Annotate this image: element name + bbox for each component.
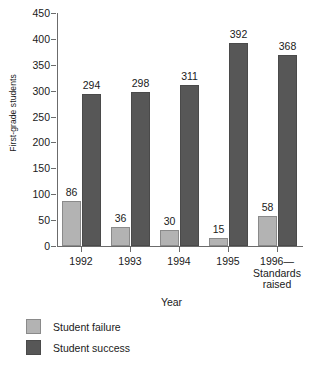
x-tick-mark	[81, 246, 82, 252]
x-axis-line	[57, 246, 303, 247]
legend-item[interactable]: Student failure	[26, 316, 130, 337]
bar-value-label: 368	[268, 41, 308, 52]
legend-item[interactable]: Student success	[26, 337, 130, 358]
x-axis-title-text: Year	[161, 296, 182, 308]
y-tick-mark	[51, 246, 56, 247]
bar-success	[229, 43, 248, 246]
y-tick-label: 50	[16, 215, 50, 226]
bar-value-label: 311	[170, 71, 210, 82]
y-tick-mark	[51, 168, 56, 169]
bar-success	[82, 94, 101, 246]
y-tick-mark	[51, 117, 56, 118]
y-tick-mark	[51, 65, 56, 66]
bar-failure	[160, 230, 179, 246]
bar-value-label: 392	[219, 29, 259, 40]
y-tick-mark	[51, 13, 56, 14]
legend-label: Student success	[53, 342, 130, 354]
bar-value-label: 298	[121, 78, 161, 89]
x-axis-title: Year	[0, 296, 313, 308]
y-tick-label: 250	[16, 111, 50, 122]
y-tick-mark	[51, 220, 56, 221]
legend-swatch-success	[26, 340, 41, 355]
bar-failure	[111, 227, 130, 246]
x-tick-mark	[277, 246, 278, 252]
x-tick-mark	[228, 246, 229, 252]
x-tick-mark	[179, 246, 180, 252]
bar-failure	[62, 201, 81, 246]
bar-success	[278, 55, 297, 246]
y-tick-label: 0	[16, 241, 50, 252]
bar-success	[131, 92, 150, 246]
plot-area: 8629436298303111539258368	[58, 13, 303, 246]
x-category-label: 1996—Standardsraised	[240, 256, 313, 291]
y-tick-label: 350	[16, 60, 50, 71]
y-tick-label: 400	[16, 34, 50, 45]
y-tick-label: 300	[16, 85, 50, 96]
legend-swatch-failure	[26, 319, 41, 334]
bar-chart: First-grade students 0501001502002503003…	[0, 0, 313, 374]
bar-failure	[258, 216, 277, 246]
bar-success	[180, 85, 199, 246]
y-tick-label: 450	[16, 8, 50, 19]
y-tick-mark	[51, 39, 56, 40]
y-tick-label: 150	[16, 163, 50, 174]
chart-legend: Student failureStudent success	[26, 316, 130, 358]
y-tick-mark	[51, 142, 56, 143]
x-tick-mark	[130, 246, 131, 252]
y-tick-mark	[51, 91, 56, 92]
bar-failure	[209, 238, 228, 246]
y-tick-label: 200	[16, 137, 50, 148]
legend-label: Student failure	[53, 321, 121, 333]
bar-value-label: 294	[72, 80, 112, 91]
y-tick-label: 100	[16, 189, 50, 200]
